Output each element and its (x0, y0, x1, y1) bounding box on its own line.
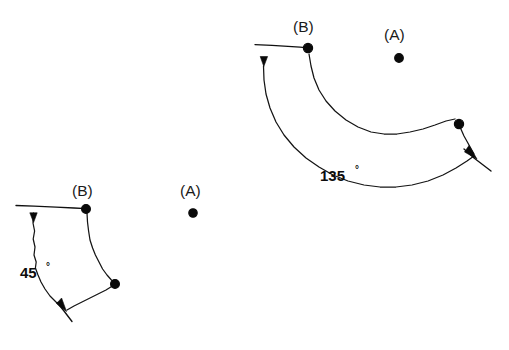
angle-value-45: 45 (20, 264, 37, 281)
degree-symbol-135: ° (355, 164, 359, 175)
reference-line-135 (255, 45, 308, 48)
start-arrowhead-135 (260, 57, 267, 67)
outer-arc-45 (87, 213, 115, 283)
reference-line-45 (16, 206, 86, 209)
inner-arc-135 (309, 54, 455, 134)
object-label-135: (B) (293, 18, 314, 35)
closing-edge-45 (67, 285, 114, 310)
diagram-root: (B) (A) 45 ° (B) (0, 0, 509, 350)
object-dot-135 (303, 43, 312, 52)
pivot-label-45: (A) (180, 182, 201, 199)
degree-symbol-45: ° (46, 261, 50, 272)
vertex-dot-135 (454, 119, 463, 128)
angle-value-135: 135 (320, 167, 345, 184)
figure-135-group: (B) (A) 135 ° (255, 18, 491, 187)
start-arrowhead-45 (30, 213, 37, 223)
vertex-dot-45 (111, 280, 120, 289)
object-label-45: (B) (72, 182, 93, 199)
end-arrowhead-45 (57, 298, 67, 312)
pivot-dot-45 (189, 209, 197, 217)
pivot-label-135: (A) (384, 26, 405, 43)
object-dot-45 (82, 205, 91, 214)
figure-45-group: (B) (A) 45 ° (16, 182, 201, 322)
figure-canvas: (B) (A) 45 ° (B) (0, 0, 509, 350)
pivot-dot-135 (395, 54, 404, 63)
outer-arc-135 (264, 66, 475, 187)
